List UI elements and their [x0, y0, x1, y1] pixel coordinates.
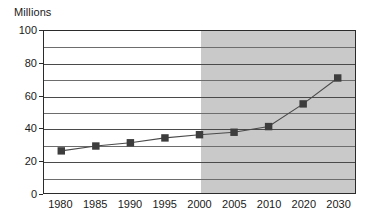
data-point-marker [230, 129, 237, 136]
x-tick-label: 2020 [292, 198, 316, 211]
data-point-marker [58, 147, 65, 154]
x-tick-label: 1995 [152, 198, 176, 211]
y-tick-label: 100 [19, 25, 37, 36]
plot-area [43, 30, 356, 194]
x-axis-tick-labels: 198019851990199520002005201020202030 [0, 196, 383, 218]
x-tick-label: 2000 [187, 198, 211, 211]
data-point-marker [299, 100, 306, 107]
x-tick-label: 1980 [48, 198, 72, 211]
y-tick-label: 20 [25, 156, 37, 167]
data-point-marker [127, 139, 134, 146]
line-chart: Millions 020406080100 198019851990199520… [0, 0, 383, 221]
data-point-marker [334, 74, 341, 81]
data-point-marker [265, 123, 272, 130]
data-point-marker [196, 131, 203, 138]
data-point-marker [92, 142, 99, 149]
x-tick-label: 2005 [222, 198, 246, 211]
y-axis-tick-labels: 020406080100 [0, 0, 43, 221]
x-tick-label: 2030 [326, 198, 350, 211]
data-point-marker [161, 134, 168, 141]
x-tick-label: 1985 [83, 198, 107, 211]
y-tick-label: 80 [25, 57, 37, 68]
data-series [44, 31, 355, 193]
x-tick-label: 1990 [118, 198, 142, 211]
series-markers [58, 74, 342, 154]
y-tick-label: 40 [25, 123, 37, 134]
series-line [61, 78, 337, 151]
x-tick-label: 2010 [257, 198, 281, 211]
y-tick-label: 60 [25, 90, 37, 101]
